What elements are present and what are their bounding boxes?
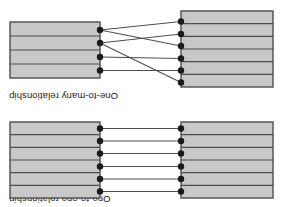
one-to-many-right-table [10,22,100,78]
one-to-one-diagram [0,103,287,207]
one-to-one-left-table [181,122,273,198]
panel-one-to-many: One-to-many relationship [0,0,287,104]
one-to-many-left-table [181,11,273,87]
one-to-one-connectors [100,129,181,192]
panel-one-to-one: One-to-one relationship [0,104,287,207]
one-to-many-diagram [0,0,287,104]
one-to-one-right-table [10,122,100,198]
one-to-many-connectors [100,22,181,83]
figure-root: One-to-one relationship [0,0,287,207]
